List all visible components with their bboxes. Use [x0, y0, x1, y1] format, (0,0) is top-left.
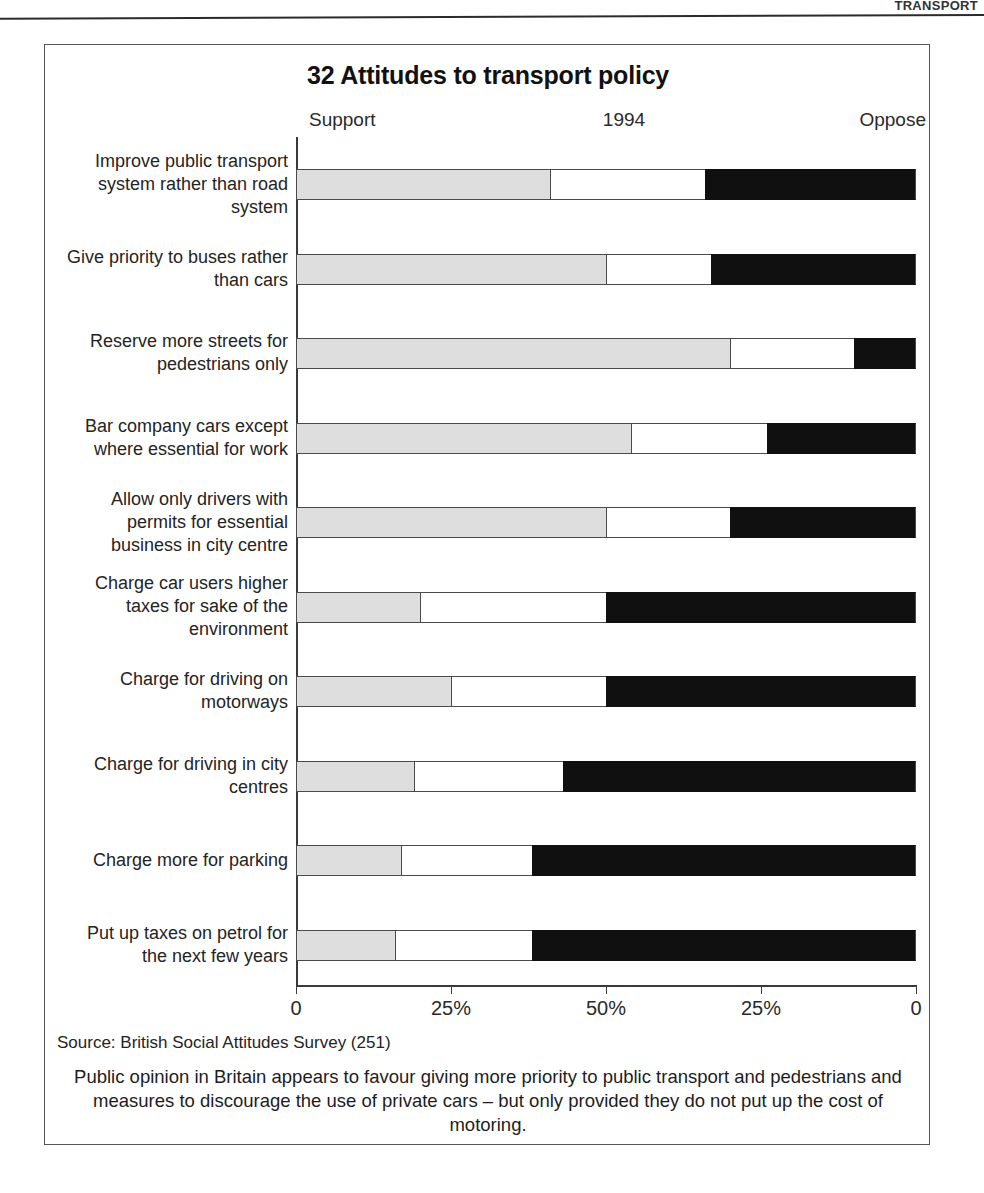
chart-row-label: Charge for driving in city centres	[59, 753, 288, 799]
chart-row-label: Charge car users higher taxes for sake o…	[59, 572, 288, 641]
stacked-bar	[296, 761, 916, 792]
stacked-bar	[296, 676, 916, 707]
chart-row-label: Reserve more streets for pedestrians onl…	[59, 330, 288, 376]
bar-segment-neither	[631, 423, 767, 454]
x-axis-tick	[916, 985, 917, 994]
bar-segment-oppose	[854, 338, 916, 369]
stacked-bar	[296, 592, 916, 623]
x-axis-tick-label: 50%	[566, 997, 646, 1020]
bar-segment-neither	[414, 761, 563, 792]
x-axis-tick	[606, 985, 607, 994]
bar-segment-support	[296, 423, 631, 454]
chart-plot-area: Improve public transport system rather t…	[45, 45, 931, 1146]
x-axis-tick-label: 25%	[721, 997, 801, 1020]
bar-segment-support	[296, 507, 606, 538]
bar-segment-support	[296, 338, 730, 369]
page-header-text: TRANSPORT	[894, 0, 978, 12]
x-axis-tick-label: 0	[256, 997, 336, 1020]
chart-row: Allow only drivers with permits for esse…	[45, 483, 931, 565]
bar-segment-neither	[401, 845, 531, 876]
bar-segment-neither	[606, 254, 711, 285]
stacked-bar	[296, 845, 916, 876]
stacked-bar	[296, 423, 916, 454]
chart-row: Bar company cars except where essential …	[45, 399, 931, 481]
bar-segment-oppose	[532, 930, 916, 961]
bar-segment-oppose	[606, 676, 916, 707]
bar-segment-support	[296, 169, 550, 200]
source-note: Source: British Social Attitudes Survey …	[57, 1033, 391, 1053]
chart-row-label: Give priority to buses rather than cars	[59, 246, 288, 292]
bar-segment-oppose	[711, 254, 916, 285]
bar-segment-support	[296, 676, 451, 707]
chart-row-label: Charge more for parking	[59, 849, 288, 872]
x-axis-tick	[761, 985, 762, 994]
chart-row: Charge for driving on motorways	[45, 652, 931, 734]
bar-segment-neither	[420, 592, 606, 623]
bar-segment-support	[296, 592, 420, 623]
chart-row: Give priority to buses rather than cars	[45, 230, 931, 312]
chart-row-label: Bar company cars except where essential …	[59, 415, 288, 461]
chart-row: Improve public transport system rather t…	[45, 145, 931, 227]
chart-row: Charge more for parking	[45, 821, 931, 903]
chart-row: Reserve more streets for pedestrians onl…	[45, 314, 931, 396]
stacked-bar	[296, 930, 916, 961]
chart-row-label: Charge for driving on motorways	[59, 668, 288, 714]
chart-row: Charge for driving in city centres	[45, 737, 931, 819]
bar-segment-neither	[451, 676, 606, 707]
chart-row-label: Put up taxes on petrol for the next few …	[59, 922, 288, 968]
chart-row: Charge car users higher taxes for sake o…	[45, 568, 931, 650]
bar-segment-oppose	[532, 845, 916, 876]
bar-segment-support	[296, 761, 414, 792]
x-axis-tick-label: 25%	[411, 997, 491, 1020]
x-axis-tick-label: 0	[876, 997, 956, 1020]
stacked-bar	[296, 507, 916, 538]
page-header-rule	[0, 14, 984, 20]
x-axis-tick	[451, 985, 452, 994]
chart-row-label: Improve public transport system rather t…	[59, 150, 288, 219]
bar-segment-oppose	[563, 761, 916, 792]
chart-row: Put up taxes on petrol for the next few …	[45, 906, 931, 988]
stacked-bar	[296, 254, 916, 285]
bar-segment-oppose	[606, 592, 916, 623]
bar-segment-oppose	[705, 169, 916, 200]
figure-caption: Public opinion in Britain appears to fav…	[63, 1065, 913, 1137]
bar-segment-support	[296, 845, 401, 876]
bar-segment-oppose	[767, 423, 916, 454]
bar-segment-support	[296, 930, 395, 961]
stacked-bar	[296, 338, 916, 369]
bar-segment-neither	[550, 169, 705, 200]
figure-frame: 32 Attitudes to transport policy Support…	[44, 44, 930, 1145]
x-axis-tick	[296, 985, 297, 994]
bar-segment-support	[296, 254, 606, 285]
bar-segment-neither	[395, 930, 531, 961]
chart-row-label: Allow only drivers with permits for esse…	[59, 488, 288, 557]
stacked-bar	[296, 169, 916, 200]
bar-segment-neither	[606, 507, 730, 538]
bar-segment-neither	[730, 338, 854, 369]
bar-segment-oppose	[730, 507, 916, 538]
